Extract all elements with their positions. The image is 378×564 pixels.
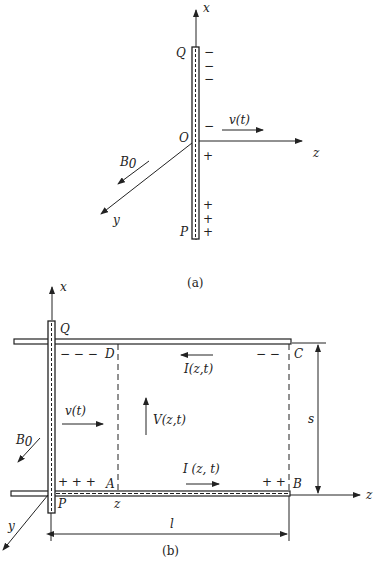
current-label-top: I(z,t) <box>183 362 213 376</box>
corner-p: P <box>57 497 67 511</box>
velocity-label-b: v(t) <box>65 404 86 418</box>
length-label: l <box>170 517 174 531</box>
field-label-b: B0 <box>15 433 33 449</box>
x-axis-label-b: x <box>60 280 67 294</box>
caption-b: (b) <box>162 544 179 558</box>
point-p-a: P <box>179 225 189 239</box>
corner-d: D <box>104 347 115 361</box>
voltage-label: V(z,t) <box>153 413 186 427</box>
corner-b: B <box>292 477 302 491</box>
positive-charge: + <box>203 149 213 163</box>
negative-charge: − <box>204 45 214 59</box>
position-label-z: z <box>113 497 121 511</box>
separation-label: s <box>308 412 314 426</box>
y-axis-label-a: y <box>112 213 120 227</box>
z-axis-label-b: z <box>365 488 373 502</box>
negative-charge: − <box>204 59 214 73</box>
z-axis-label-a: z <box>312 146 320 160</box>
current-label-bottom: I (z, t) <box>182 462 220 476</box>
x-axis-label-a: x <box>203 1 210 15</box>
corner-a: A <box>105 477 115 491</box>
charges-top-left: − − − <box>60 347 98 361</box>
corner-c: C <box>294 347 303 361</box>
transmission-line-diagram: x z y B0 v(t) Q O P − − − − + + + + (a) … <box>0 0 378 564</box>
velocity-label-a: v(t) <box>229 113 250 127</box>
charges-top-right: − − <box>256 347 280 361</box>
positive-charge: + <box>203 212 213 226</box>
positive-charge: + <box>203 198 213 212</box>
y-axis-a <box>101 143 192 214</box>
point-q-a: Q <box>176 46 186 60</box>
field-label-a: B0 <box>119 155 137 171</box>
point-o-a: O <box>179 131 189 145</box>
y-axis-label-b: y <box>7 519 15 533</box>
charges-bottom-right: + + <box>262 475 286 489</box>
caption-a: (a) <box>187 276 204 290</box>
positive-charge: + <box>203 225 213 239</box>
figure-a: x z y B0 v(t) Q O P − − − − + + + + (a) <box>101 1 320 290</box>
negative-charge: − <box>204 119 214 133</box>
figure-b: x z y B0 v(t) V(z,t) I(z,t) I (z, t) <box>3 280 373 558</box>
charges-bottom-left: + + + <box>58 475 96 489</box>
corner-q: Q <box>60 322 70 336</box>
negative-charge: − <box>204 72 214 86</box>
